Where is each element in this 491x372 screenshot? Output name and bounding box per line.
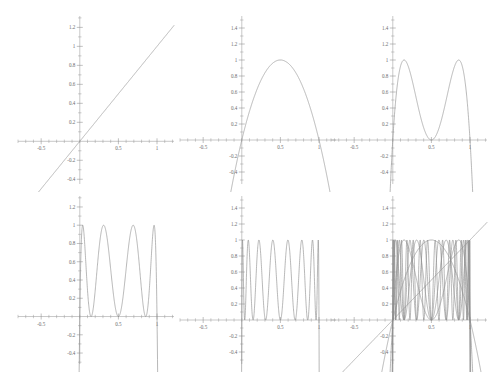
- y-tick-label: 0.2: [382, 301, 389, 307]
- plot-canvas-1: -0.50.51-0.4-0.20.20.40.60.811.2: [14, 8, 178, 192]
- y-tick-label: -0.4: [380, 349, 389, 355]
- y-tick-label: -0.2: [229, 153, 238, 159]
- y-tick-label: -0.2: [67, 332, 76, 338]
- plot-panel-2: -0.50.51-0.4-0.20.20.40.60.811.21.4: [176, 8, 340, 192]
- y-tick-label: 1.2: [382, 221, 389, 227]
- plot-canvas-2: -0.50.51-0.4-0.20.20.40.60.811.21.4: [176, 8, 340, 192]
- y-tick-label: -0.2: [67, 157, 76, 163]
- y-tick-label: 1.4: [231, 205, 238, 211]
- axes: [180, 16, 336, 184]
- plot-panel-3: -0.50.51-0.4-0.20.20.40.60.811.21.4: [327, 8, 491, 192]
- curve-f0: [18, 25, 174, 192]
- plot-panel-5: -0.50.51-0.4-0.20.20.40.60.811.21.4: [176, 188, 340, 372]
- tick-labels: -0.50.51-0.4-0.20.20.40.60.811.21.4: [199, 205, 321, 355]
- plot-panel-4: -0.50.51-0.4-0.20.20.40.60.811.2: [14, 188, 178, 372]
- y-tick-label: -0.4: [67, 176, 76, 182]
- x-tick-label: -0.5: [37, 321, 46, 327]
- y-tick-label: 1.4: [382, 205, 389, 211]
- y-tick-label: 0.2: [231, 121, 238, 127]
- y-tick-label: 0.8: [231, 253, 238, 259]
- curve-f5: [393, 240, 470, 372]
- axes: [180, 196, 336, 364]
- y-tick-label: 1.4: [382, 25, 389, 31]
- x-tick-label: 0.5: [115, 321, 122, 327]
- x-tick-label: 0.5: [115, 145, 122, 151]
- x-tick-label: 0.5: [428, 144, 435, 150]
- y-tick-label: -0.4: [67, 350, 76, 356]
- tick-marks: [331, 20, 485, 180]
- y-tick-label: 1.2: [69, 24, 76, 30]
- y-tick-label: 0.6: [231, 269, 238, 275]
- tick-labels: -0.50.51-0.4-0.20.20.40.60.811.21.4: [199, 25, 321, 175]
- x-tick-label: -0.5: [199, 144, 208, 150]
- y-tick-label: 1: [386, 237, 389, 243]
- y-tick-label: 0.4: [231, 105, 238, 111]
- tick-labels: -0.50.51-0.4-0.20.20.40.60.811.21.4: [350, 205, 472, 355]
- x-tick-label: -0.5: [199, 324, 208, 330]
- y-tick-label: 0.6: [231, 89, 238, 95]
- curve-group: [387, 60, 476, 192]
- y-tick-label: 1: [235, 57, 238, 63]
- axes: [331, 16, 487, 184]
- y-tick-label: 0.8: [382, 253, 389, 259]
- curve-f3: [78, 225, 158, 372]
- y-tick-label: -0.2: [380, 333, 389, 339]
- y-tick-label: 1.4: [231, 25, 238, 31]
- plot-canvas-4: -0.50.51-0.4-0.20.20.40.60.811.2: [14, 188, 178, 372]
- x-tick-label: -0.5: [350, 144, 359, 150]
- tick-marks: [180, 200, 334, 360]
- axes: [18, 16, 174, 184]
- y-tick-label: -0.2: [380, 153, 389, 159]
- tick-labels: -0.50.51-0.4-0.20.20.40.60.811.2: [37, 24, 159, 182]
- y-tick-label: 0.4: [382, 105, 389, 111]
- curve-group: [331, 222, 487, 372]
- curve-f2: [387, 60, 476, 192]
- y-tick-label: 0.6: [382, 89, 389, 95]
- y-tick-label: 0.2: [69, 295, 76, 301]
- tick-marks: [18, 198, 172, 362]
- tick-marks: [18, 18, 172, 179]
- y-tick-label: 0.6: [69, 259, 76, 265]
- y-tick-label: -0.4: [229, 169, 238, 175]
- y-tick-label: 0.2: [69, 119, 76, 125]
- y-tick-label: 1: [386, 57, 389, 63]
- y-tick-label: -0.4: [229, 349, 238, 355]
- x-tick-label: 0.5: [428, 324, 435, 330]
- y-tick-label: 0.2: [382, 121, 389, 127]
- curve-f2: [387, 240, 476, 372]
- curve-f4: [242, 240, 320, 372]
- tick-labels: -0.50.51-0.4-0.20.20.40.60.811.21.4: [350, 25, 472, 175]
- plot-canvas-6: -0.50.51-0.4-0.20.20.40.60.811.21.4: [327, 188, 491, 372]
- tick-marks: [180, 20, 334, 180]
- y-tick-label: 0.6: [69, 81, 76, 87]
- x-tick-label: 0.5: [277, 324, 284, 330]
- y-tick-label: -0.2: [229, 333, 238, 339]
- y-tick-label: 0.8: [69, 240, 76, 246]
- y-tick-label: 0.8: [69, 62, 76, 68]
- x-tick-label: 1: [156, 145, 159, 151]
- y-tick-label: 1: [73, 43, 76, 49]
- y-tick-label: 0.4: [382, 285, 389, 291]
- plot-canvas-5: -0.50.51-0.4-0.20.20.40.60.811.21.4: [176, 188, 340, 372]
- y-tick-label: 1.2: [231, 221, 238, 227]
- curve-f4: [393, 240, 471, 372]
- x-tick-label: -0.5: [350, 324, 359, 330]
- x-tick-label: 0.5: [277, 144, 284, 150]
- y-tick-label: 1: [235, 237, 238, 243]
- plot-panel-6: -0.50.51-0.4-0.20.20.40.60.811.21.4: [327, 188, 491, 372]
- y-tick-label: -0.4: [380, 169, 389, 175]
- y-tick-label: 0.2: [231, 301, 238, 307]
- curve-group: [242, 240, 320, 372]
- y-tick-label: 0.8: [382, 73, 389, 79]
- y-tick-label: 0.4: [69, 277, 76, 283]
- curve-group: [18, 25, 174, 192]
- y-tick-label: 0.4: [231, 285, 238, 291]
- y-tick-label: 1.2: [231, 41, 238, 47]
- plot-canvas-3: -0.50.51-0.4-0.20.20.40.60.811.21.4: [327, 8, 491, 192]
- y-tick-label: 1: [73, 222, 76, 228]
- y-tick-label: 0.8: [231, 73, 238, 79]
- curve-group: [78, 225, 158, 372]
- plot-panel-1: -0.50.51-0.4-0.20.20.40.60.811.2: [14, 8, 178, 192]
- y-tick-label: 0.6: [382, 269, 389, 275]
